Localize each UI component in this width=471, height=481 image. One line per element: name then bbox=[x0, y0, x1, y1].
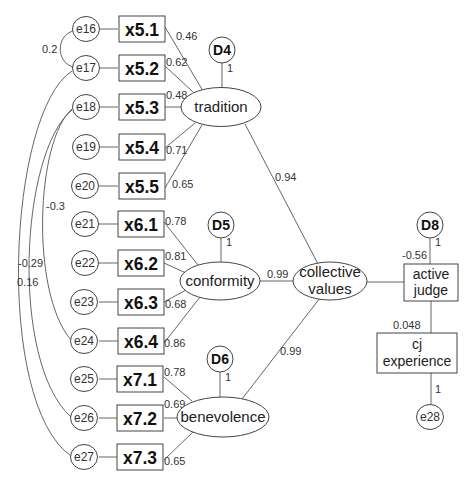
covariance-label-e18-e26: -0.29 bbox=[18, 257, 43, 269]
svg-text:D8: D8 bbox=[421, 217, 439, 233]
coef-tradition-collective: 0.94 bbox=[275, 171, 296, 183]
coef-benevolence-collective: 0.99 bbox=[280, 345, 301, 357]
loading-x5-4: 0.71 bbox=[166, 144, 187, 156]
error-e27: e27 bbox=[71, 445, 98, 470]
svg-text:cj: cj bbox=[412, 336, 422, 352]
svg-text:x6.4: x6.4 bbox=[124, 331, 158, 352]
sem-path-diagram: 0.2 -0.3 -0.29 0.16 e16 e17 bbox=[0, 0, 471, 481]
coef-active-judge-cj-experience: 0.048 bbox=[393, 319, 421, 331]
error-e28: e28 1 bbox=[417, 383, 444, 430]
coef-conformity-collective: 0.99 bbox=[267, 268, 288, 280]
svg-text:e24: e24 bbox=[74, 334, 94, 348]
svg-text:benevolence: benevolence bbox=[180, 408, 265, 425]
loading-x6-2: 0.81 bbox=[165, 250, 186, 262]
error-e23: e23 bbox=[71, 290, 98, 315]
svg-text:1: 1 bbox=[435, 236, 441, 248]
svg-text:x6.1: x6.1 bbox=[124, 214, 158, 235]
svg-text:1: 1 bbox=[227, 62, 233, 74]
error-e17: e17 bbox=[73, 56, 100, 81]
path-tradition-collective bbox=[245, 124, 318, 264]
svg-text:1: 1 bbox=[435, 383, 441, 395]
svg-text:e26: e26 bbox=[74, 411, 94, 425]
indicator-x6-4: x6.4 bbox=[118, 328, 164, 354]
svg-text:e18: e18 bbox=[76, 100, 96, 114]
covariance-e18-e24 bbox=[43, 109, 72, 340]
svg-text:collective: collective bbox=[299, 263, 361, 280]
svg-text:e21: e21 bbox=[75, 217, 95, 231]
error-e19: e19 bbox=[73, 135, 100, 160]
svg-text:values: values bbox=[308, 280, 351, 297]
error-e18: e18 bbox=[73, 95, 100, 120]
svg-text:e19: e19 bbox=[76, 140, 96, 154]
svg-text:x7.2: x7.2 bbox=[123, 408, 157, 429]
svg-text:x7.1: x7.1 bbox=[123, 369, 157, 390]
svg-text:judge: judge bbox=[413, 282, 448, 298]
svg-text:e16: e16 bbox=[76, 22, 96, 36]
svg-text:e28: e28 bbox=[420, 410, 440, 424]
observed-indicators: x5.1 x5.2 x5.3 x5.4 x5.5 x6.1 x6.2 x6.3 … bbox=[117, 16, 165, 470]
error-connectors bbox=[99, 29, 118, 457]
indicator-x7-2: x7.2 bbox=[117, 405, 163, 431]
error-e21: e21 bbox=[72, 212, 99, 237]
covariance-label-e18-e24: -0.3 bbox=[46, 200, 65, 212]
svg-text:D6: D6 bbox=[211, 351, 229, 367]
svg-text:e17: e17 bbox=[76, 61, 96, 75]
indicator-x5-2: x5.2 bbox=[119, 55, 165, 81]
latent-collective-values: collective values bbox=[293, 262, 367, 300]
svg-text:tradition: tradition bbox=[194, 98, 247, 115]
loading-x6-1: 0.78 bbox=[165, 215, 186, 227]
svg-text:x6.3: x6.3 bbox=[124, 292, 158, 313]
svg-text:1: 1 bbox=[225, 371, 231, 383]
error-e26: e26 bbox=[71, 406, 98, 431]
svg-text:x5.4: x5.4 bbox=[125, 137, 159, 158]
svg-text:active: active bbox=[413, 266, 450, 282]
indicator-x6-1: x6.1 bbox=[118, 211, 164, 237]
error-terms: e16 e17 e18 e19 e20 e21 e22 e23 e24 e25 … bbox=[71, 17, 100, 470]
svg-text:D5: D5 bbox=[212, 217, 230, 233]
loading-x7-1: 0.78 bbox=[164, 366, 185, 378]
indicator-x5-3: x5.3 bbox=[119, 94, 165, 120]
indicator-x7-1: x7.1 bbox=[117, 366, 163, 392]
loading-x5-5: 0.65 bbox=[172, 178, 193, 190]
error-e22: e22 bbox=[72, 251, 99, 276]
outcome-cj-experience: cj experience bbox=[377, 333, 457, 373]
svg-text:e27: e27 bbox=[74, 450, 94, 464]
covariance-arcs: 0.2 -0.3 -0.29 0.16 bbox=[17, 31, 73, 456]
latent-tradition: tradition bbox=[181, 88, 261, 127]
indicator-x5-4: x5.4 bbox=[119, 134, 165, 160]
loading-x7-3: 0.65 bbox=[164, 455, 185, 467]
error-e25: e25 bbox=[71, 367, 98, 392]
covariance-label-e17-e27: 0.16 bbox=[17, 276, 38, 288]
loading-x5-1: 0.46 bbox=[176, 30, 197, 42]
svg-text:experience: experience bbox=[383, 353, 452, 369]
svg-text:x5.5: x5.5 bbox=[125, 176, 159, 197]
svg-text:e25: e25 bbox=[74, 372, 94, 386]
error-e24: e24 bbox=[71, 329, 98, 354]
indicator-x6-2: x6.2 bbox=[118, 250, 164, 276]
coef-collective-active-judge: -0.56 bbox=[402, 249, 427, 261]
svg-text:x6.2: x6.2 bbox=[124, 253, 158, 274]
outcome-active-judge: active judge bbox=[404, 264, 458, 301]
error-e16: e16 bbox=[73, 17, 100, 42]
latent-benevolence: benevolence bbox=[177, 397, 269, 437]
svg-text:x7.3: x7.3 bbox=[123, 447, 157, 468]
svg-text:e22: e22 bbox=[75, 256, 95, 270]
svg-text:conformity: conformity bbox=[185, 272, 255, 289]
svg-text:1: 1 bbox=[226, 236, 232, 248]
latent-conformity: conformity bbox=[180, 262, 260, 300]
loading-x6-3: 0.68 bbox=[165, 298, 186, 310]
loading-x5-2: 0.62 bbox=[166, 56, 187, 68]
svg-text:x5.1: x5.1 bbox=[125, 19, 159, 40]
indicator-x6-3: x6.3 bbox=[118, 289, 164, 315]
covariance-e16-e17 bbox=[60, 31, 73, 67]
svg-text:e23: e23 bbox=[74, 295, 94, 309]
error-e20: e20 bbox=[72, 174, 99, 199]
indicator-x7-3: x7.3 bbox=[117, 444, 163, 470]
svg-text:e20: e20 bbox=[75, 179, 95, 193]
svg-text:x5.3: x5.3 bbox=[125, 97, 159, 118]
indicator-x5-1: x5.1 bbox=[119, 16, 165, 42]
svg-text:x5.2: x5.2 bbox=[125, 58, 159, 79]
covariance-label-e16-e17: 0.2 bbox=[42, 43, 57, 55]
loading-x6-4: 0.86 bbox=[164, 337, 185, 349]
svg-text:D4: D4 bbox=[213, 42, 231, 58]
